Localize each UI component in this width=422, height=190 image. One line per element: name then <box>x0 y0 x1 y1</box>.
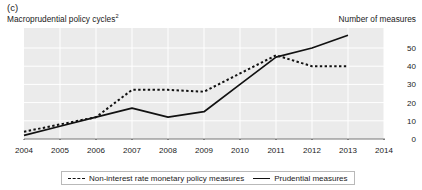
legend-item: Non-interest rate monetary policy measur… <box>68 174 244 183</box>
macroprudential-policy-cycles-chart: (c) Macroprudential policy cycles2 Numbe… <box>0 0 422 190</box>
y-axis-unit-label: Number of measures <box>339 14 416 24</box>
x-axis-tick-label: 2004 <box>15 146 33 156</box>
x-axis-tick-label: 2013 <box>339 146 357 156</box>
x-axis-tick-label: 2008 <box>159 146 177 156</box>
x-axis-tick-labels: 2004200520062007200820092010201120122013… <box>0 146 422 158</box>
legend-solid-line-icon <box>253 178 270 179</box>
chart-legend: Non-interest rate monetary policy measur… <box>61 171 355 185</box>
x-axis-tick-label: 2005 <box>51 146 69 156</box>
panel-letter: (c) <box>7 2 18 13</box>
x-axis-tick-label: 2009 <box>195 146 213 156</box>
plot-svg <box>0 28 422 140</box>
chart-title-text: Macroprudential policy cycles <box>7 14 115 24</box>
x-axis-tick-label: 2011 <box>267 146 284 156</box>
x-axis-tick-label: 2012 <box>303 146 321 156</box>
plot-area <box>0 28 422 140</box>
legend-item-label: Prudential measures <box>274 174 347 183</box>
page-title: Macroprudential policy cycles2 <box>7 14 119 24</box>
x-axis-tick-label: 2006 <box>87 146 105 156</box>
title-footnote-marker: 2 <box>115 13 118 19</box>
x-axis-tick-label: 2014 <box>375 146 393 156</box>
legend-item-label: Non-interest rate monetary policy measur… <box>89 174 244 183</box>
x-axis-tick-label: 2010 <box>231 146 249 156</box>
legend-dashed-line-icon <box>68 178 85 179</box>
x-axis-tick-label: 2007 <box>123 146 141 156</box>
legend-item: Prudential measures <box>253 174 347 183</box>
